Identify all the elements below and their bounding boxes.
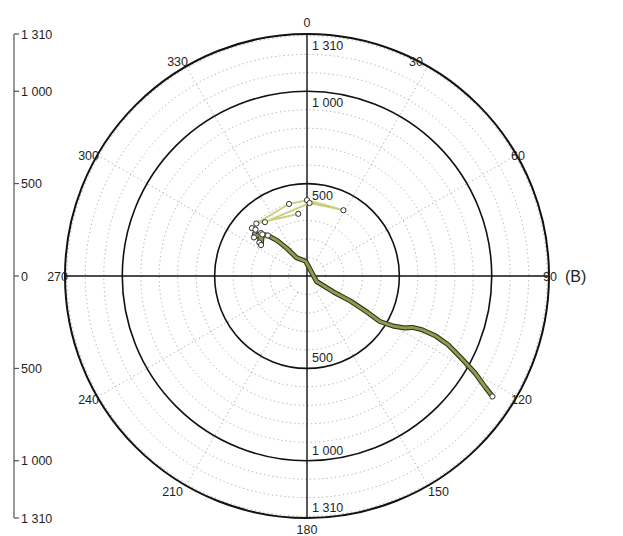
grid-spoke: [97, 155, 291, 267]
data-point-marker: [258, 242, 263, 247]
angle-label-270: 270: [47, 270, 68, 284]
radial-label-bottom-1000: 1 000: [312, 444, 343, 458]
angle-label-150: 150: [428, 485, 449, 499]
radial-label-bottom-1310: 1 310: [312, 501, 343, 515]
radial-label-top-1310: 1 310: [312, 39, 343, 53]
data-point-marker: [490, 394, 495, 399]
left-axis-label: 1 000: [21, 454, 52, 468]
data-point-marker: [253, 227, 258, 232]
left-axis-label: 1 310: [21, 512, 52, 526]
angle-label-30: 30: [409, 55, 423, 69]
data-point-marker: [260, 232, 265, 237]
left-axis-label: 500: [21, 177, 42, 191]
data-point-marker: [265, 233, 270, 238]
radial-label-top-1000: 1 000: [312, 96, 343, 110]
radial-label-bottom-500: 500: [312, 351, 333, 365]
left-axis-label: 500: [21, 362, 42, 376]
angle-label-0: 0: [304, 16, 311, 30]
data-point-marker: [341, 208, 346, 213]
data-series: [249, 197, 495, 399]
left-axis-label: 1 310: [21, 28, 52, 42]
data-point-marker: [286, 201, 291, 206]
main-trajectory-outline: [252, 228, 493, 396]
data-point-marker: [307, 200, 312, 205]
left-axis-label: 0: [21, 270, 28, 284]
polar-crosshair-axes: [65, 34, 549, 518]
grid-spoke: [323, 155, 517, 267]
chart-title: [150, 0, 470, 6]
angle-label-120: 120: [511, 393, 532, 407]
polar-chart: 1 3101 00050005001 0001 310 030609012015…: [0, 0, 623, 536]
angle-label-90: 90: [543, 270, 557, 284]
angle-label-60: 60: [511, 149, 525, 163]
angle-label-330: 330: [167, 55, 188, 69]
data-point-marker: [251, 235, 256, 240]
grid-spoke: [97, 285, 291, 397]
radial-label-top-500: 500: [312, 189, 333, 203]
data-point-marker: [254, 221, 259, 226]
data-point-marker: [262, 220, 267, 225]
angle-label-300: 300: [78, 149, 99, 163]
panel-label: (B): [565, 268, 586, 285]
main-trajectory-line: [252, 228, 493, 396]
angle-label-240: 240: [78, 393, 99, 407]
left-axis-label: 1 000: [21, 85, 52, 99]
grid-spoke: [186, 292, 298, 486]
grid-spoke: [186, 66, 298, 260]
angle-label-180: 180: [297, 523, 318, 536]
data-point-marker: [296, 211, 301, 216]
angle-label-210: 210: [162, 485, 183, 499]
